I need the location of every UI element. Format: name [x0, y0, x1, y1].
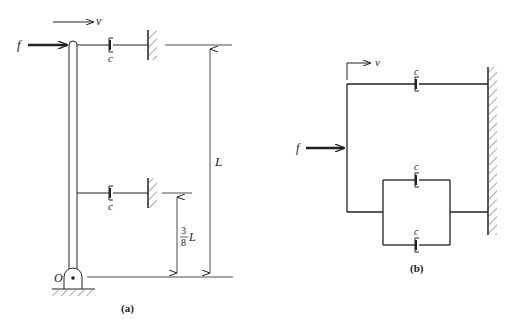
fraction-suffix: L — [188, 230, 196, 244]
pivot-support: O — [52, 268, 95, 296]
top-damper-label-b: c — [414, 66, 419, 77]
pivot-label: O — [54, 271, 63, 285]
dimension-lines-a: L 3 8 L — [87, 45, 233, 277]
figure-a: v f c c — [17, 14, 233, 315]
force-label-b: f — [296, 141, 301, 155]
fraction-denominator: 8 — [181, 237, 186, 248]
top-damper-a: c — [77, 38, 148, 64]
rigid-bar — [69, 41, 77, 275]
pivot-pin-icon — [71, 276, 75, 280]
top-damper-label-a: c — [108, 52, 113, 64]
top-damper-b: c — [347, 66, 488, 91]
force-arrow-a: f — [17, 37, 67, 52]
fraction-numerator: 3 — [181, 225, 186, 236]
velocity-arrow-a: v — [53, 14, 102, 28]
wall-b — [488, 67, 497, 235]
mid-wall-a — [148, 178, 157, 208]
parallel-upper-label: c — [414, 161, 419, 172]
mid-damper-a: c — [77, 186, 148, 212]
ground-hatch — [52, 290, 95, 296]
diagram-canvas: v f c c — [0, 0, 511, 323]
velocity-label-a: v — [96, 14, 102, 28]
mid-damper-label-a: c — [108, 200, 113, 212]
top-wall-a — [148, 30, 157, 60]
length-label: L — [214, 154, 222, 169]
caption-a: (a) — [121, 302, 134, 315]
figure-b: v f c c — [296, 56, 497, 275]
caption-b: (b) — [410, 262, 424, 275]
force-label-a: f — [17, 37, 23, 52]
force-arrow-b: f — [296, 141, 344, 155]
velocity-label-b: v — [375, 56, 380, 68]
velocity-arrow-b: v — [347, 56, 380, 80]
parallel-dampers-b: c c — [383, 161, 450, 252]
parallel-lower-label: c — [414, 226, 419, 237]
